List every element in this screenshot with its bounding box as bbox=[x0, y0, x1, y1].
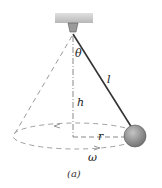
pendulum-bob bbox=[124, 125, 146, 147]
conical-pendulum-diagram bbox=[0, 0, 162, 188]
omega-label: ω bbox=[88, 152, 97, 163]
height-label: h bbox=[77, 97, 84, 108]
circular-path bbox=[13, 123, 139, 149]
ceiling-support bbox=[55, 13, 93, 23]
length-label: l bbox=[107, 74, 111, 85]
radius-label: r bbox=[98, 131, 103, 142]
pivot-mount bbox=[68, 23, 78, 32]
rotation-arrow-back bbox=[54, 124, 60, 128]
theta-label: θ bbox=[75, 48, 82, 59]
cone-edge-dashed bbox=[14, 36, 72, 135]
figure-caption: (a) bbox=[67, 169, 81, 179]
